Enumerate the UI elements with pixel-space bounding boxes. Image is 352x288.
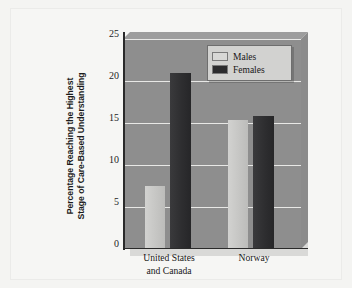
x-tick-label-norway: Norway <box>213 252 295 265</box>
plot-top-bevel <box>123 32 308 39</box>
x-axis-tick-labels: United States and Canada Norway <box>123 252 308 284</box>
x-axis-line <box>123 248 308 250</box>
bar-males-norway[interactable] <box>228 120 248 249</box>
y-tick-label-15: 15 <box>99 112 119 123</box>
x-tick-label-line-1: United States <box>123 252 215 265</box>
bar-males-united-states-and-canada[interactable] <box>145 186 165 249</box>
gridline-25 <box>123 39 301 40</box>
plot-right-bevel <box>301 32 308 249</box>
x-tick-label-united-states-and-canada: United States and Canada <box>123 252 215 277</box>
y-tick-label-20: 20 <box>99 70 119 81</box>
plot-block: Males Females <box>123 39 301 249</box>
figure: Percentage Reaching the Highest Stage of… <box>0 0 352 288</box>
legend-swatch-males-icon <box>212 52 228 61</box>
y-tick-label-25: 25 <box>99 28 119 39</box>
legend-swatch-females-icon <box>212 65 228 74</box>
figure-panel: Percentage Reaching the Highest Stage of… <box>10 8 342 280</box>
gridline-10 <box>123 165 301 166</box>
bar-females-norway[interactable] <box>253 116 274 249</box>
x-tick-label-line-1: Norway <box>213 252 295 265</box>
bar-females-united-states-and-canada[interactable] <box>170 73 191 249</box>
y-axis-title-line-2: Stage of Care-Based Understanding <box>76 72 87 219</box>
y-tick-label-10: 10 <box>99 154 119 165</box>
y-tick-label-5: 5 <box>99 196 119 207</box>
y-axis-title-line-1: Percentage Reaching the Highest <box>64 78 75 215</box>
legend-label-males: Males <box>233 52 256 62</box>
legend-item-females[interactable]: Females <box>212 63 286 76</box>
y-axis-title: Percentage Reaching the Highest Stage of… <box>59 39 93 254</box>
legend-item-males[interactable]: Males <box>212 50 286 63</box>
y-axis-tick-labels: 25 20 15 10 5 0 <box>99 33 119 249</box>
x-tick-label-line-2: and Canada <box>123 265 215 278</box>
legend: Males Females <box>207 45 292 81</box>
legend-label-females: Females <box>233 65 265 75</box>
y-tick-label-0: 0 <box>99 238 119 249</box>
y-axis-line <box>123 32 125 250</box>
gridline-15 <box>123 123 301 124</box>
gridline-20 <box>123 81 301 82</box>
